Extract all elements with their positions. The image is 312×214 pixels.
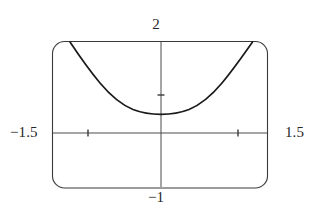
canvas-background [0,0,312,214]
axis-label-x-min: −1.5 [10,125,38,140]
axis-label-y-max: 2 [0,17,312,32]
plot-canvas [0,0,312,214]
graph-figure: 2 −1 −1.5 1.5 [0,0,312,214]
axis-label-y-min: −1 [0,190,312,205]
axis-label-x-max: 1.5 [285,125,304,140]
